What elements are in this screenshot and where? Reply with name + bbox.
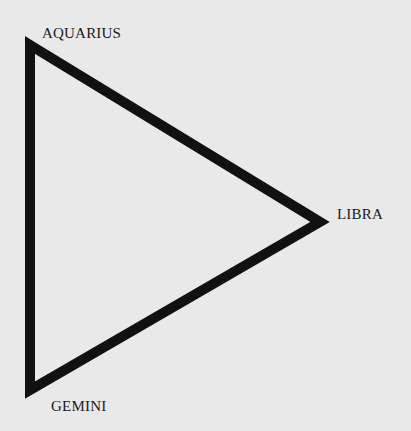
vertex-label-gemini: GEMINI xyxy=(51,398,106,415)
vertex-label-aquarius: AQUARIUS xyxy=(42,25,121,42)
triangle-shape xyxy=(30,45,320,390)
vertex-label-libra: LIBRA xyxy=(337,206,383,223)
